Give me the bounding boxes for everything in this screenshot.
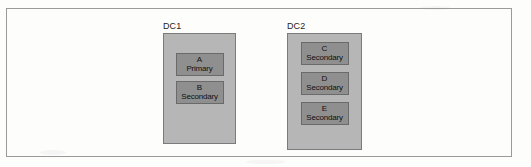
figure-border <box>6 8 512 157</box>
node-name-c: C <box>302 44 348 53</box>
node-role-d: Secondary <box>302 83 348 92</box>
scan-artifact <box>246 160 286 164</box>
node-name-d: D <box>302 74 348 83</box>
datacenter-container-dc2: C Secondary D Secondary E Secondary <box>287 33 362 150</box>
datacenter-container-dc1: A Primary B Secondary <box>163 33 236 144</box>
datacenter-label-dc1: DC1 <box>163 21 236 31</box>
node-name-a: A <box>177 55 223 64</box>
node-name-e: E <box>302 104 348 113</box>
node-box-c: C Secondary <box>301 42 349 65</box>
node-name-b: B <box>177 83 223 92</box>
figure-canvas: DC1 A Primary B Secondary DC2 C Secondar… <box>0 0 531 167</box>
datacenter-group-dc2: DC2 C Secondary D Secondary E Secondary <box>287 21 362 150</box>
node-box-b: B Secondary <box>176 81 224 104</box>
datacenter-group-dc1: DC1 A Primary B Secondary <box>163 21 236 144</box>
node-box-d: D Secondary <box>301 72 349 95</box>
node-role-b: Secondary <box>177 92 223 101</box>
node-role-a: Primary <box>177 64 223 73</box>
node-role-c: Secondary <box>302 53 348 62</box>
node-role-e: Secondary <box>302 113 348 122</box>
node-box-e: E Secondary <box>301 102 349 125</box>
datacenter-label-dc2: DC2 <box>287 21 362 31</box>
node-box-a: A Primary <box>176 53 224 76</box>
